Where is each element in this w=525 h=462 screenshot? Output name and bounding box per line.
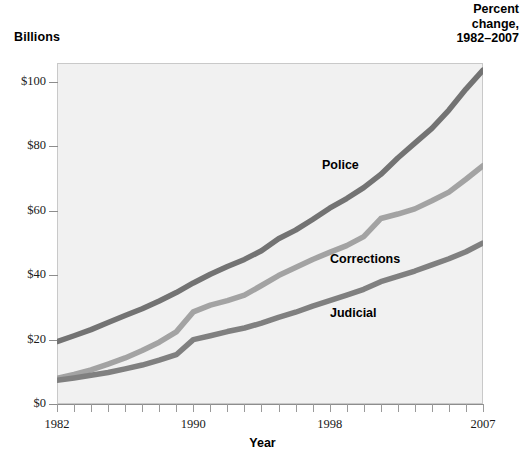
x-tick-label: 1982 — [32, 417, 82, 432]
x-tick-mark — [466, 404, 467, 412]
y-tick-label: $60 — [4, 203, 46, 218]
percent-change-note-line-3: 1982–2007 — [387, 31, 519, 46]
x-axis-line — [57, 404, 484, 405]
x-tick-mark — [210, 404, 211, 412]
x-tick-mark — [74, 404, 75, 412]
x-tick-mark — [364, 404, 365, 412]
percent-change-note: Percent change, 1982–2007 — [387, 2, 519, 46]
x-tick-mark — [483, 404, 484, 412]
x-tick-mark — [296, 404, 297, 412]
x-tick-mark — [125, 404, 126, 412]
x-tick-mark — [432, 404, 433, 412]
x-tick-mark — [159, 404, 160, 412]
x-tick-mark — [381, 404, 382, 412]
x-tick-mark — [415, 404, 416, 412]
x-tick-mark — [142, 404, 143, 412]
x-tick-mark — [193, 404, 194, 412]
x-tick-label: 2007 — [458, 417, 508, 432]
x-tick-mark — [347, 404, 348, 412]
y-tick-label: $40 — [4, 267, 46, 282]
x-tick-mark — [398, 404, 399, 412]
percent-change-note-line-1: Percent — [387, 2, 519, 17]
y-tick-label: $20 — [4, 332, 46, 347]
x-tick-mark — [279, 404, 280, 412]
x-tick-mark — [57, 404, 58, 412]
x-tick-mark — [313, 404, 314, 412]
y-tick-label: $100 — [4, 74, 46, 89]
series-lines — [57, 63, 483, 404]
series-label-police: Police — [322, 158, 359, 172]
x-tick-mark — [449, 404, 450, 412]
y-axis-unit-label: Billions — [14, 30, 60, 44]
x-tick-mark — [176, 404, 177, 412]
x-tick-label: 1990 — [168, 417, 218, 432]
percent-change-note-line-2: change, — [387, 17, 519, 32]
government-expenditure-line-chart: Billions Percent change, 1982–2007 $0$20… — [0, 0, 525, 462]
x-tick-mark — [244, 404, 245, 412]
x-tick-label: 1998 — [305, 417, 355, 432]
x-tick-mark — [261, 404, 262, 412]
x-tick-mark — [91, 404, 92, 412]
series-label-judicial: Judicial — [330, 306, 377, 320]
x-tick-mark — [227, 404, 228, 412]
x-tick-mark — [108, 404, 109, 412]
x-tick-mark — [330, 404, 331, 412]
y-tick-label: $80 — [4, 138, 46, 153]
series-label-corrections: Corrections — [330, 252, 400, 266]
x-axis-title: Year — [0, 436, 525, 450]
y-tick-label: $0 — [4, 396, 46, 411]
